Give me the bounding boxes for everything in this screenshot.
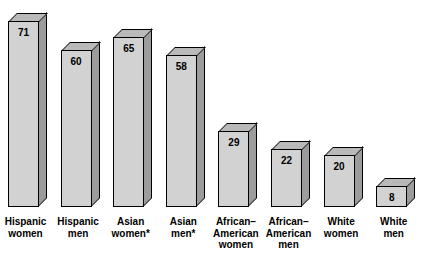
bar-side-face [301, 140, 310, 207]
bar-value-label: 8 [376, 193, 407, 203]
bar-value-label: 71 [8, 28, 39, 38]
bar-category-label: Hispanic men [52, 216, 105, 239]
bar-category-label: African– American men [262, 216, 315, 251]
bar-category-label: Asian men* [157, 216, 210, 239]
bar-category-label: African– American women [209, 216, 262, 251]
bar-side-face [143, 28, 152, 207]
bar-value-label: 58 [166, 62, 197, 72]
bar-category-label: Hispanic women [0, 216, 52, 239]
bar-column[interactable] [218, 122, 258, 207]
bar-category-label: White men [367, 216, 420, 239]
bar-column[interactable] [271, 140, 311, 207]
bar-front-face [8, 21, 39, 207]
bar-category-label: Asian women* [104, 216, 157, 239]
bar-value-label: 29 [218, 138, 249, 148]
bar-chart: 71Hispanic women60Hispanic men65Asian wo… [0, 0, 424, 265]
bar-side-face [196, 46, 205, 207]
bar-side-face [248, 122, 257, 207]
bar-category-label: White women [315, 216, 368, 239]
bar-front-face [113, 37, 144, 207]
bar-front-face [61, 50, 92, 207]
bar-side-face [91, 41, 100, 207]
bar-value-label: 60 [61, 57, 92, 67]
plot-area [0, 0, 424, 212]
bar-value-label: 20 [324, 162, 355, 172]
bar-column[interactable] [113, 28, 153, 207]
bar-value-label: 65 [113, 44, 144, 54]
bar-value-label: 22 [271, 156, 302, 166]
bar-side-face [38, 12, 47, 207]
bar-column[interactable] [8, 12, 48, 207]
bar-column[interactable] [324, 146, 364, 207]
bar-front-face [166, 55, 197, 207]
